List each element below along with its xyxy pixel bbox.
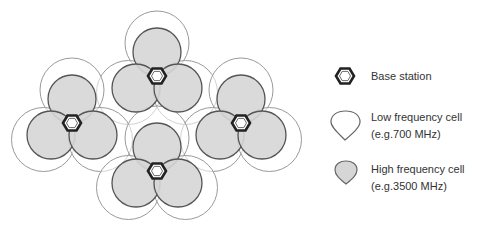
legend-hexagon-icon: [336, 69, 354, 84]
legend-teardrop-filled-icon: [335, 161, 357, 184]
legend-base-station-label: Base station: [371, 68, 432, 84]
legend-high-frequency-sublabel: (e.g.3500 MHz): [371, 178, 447, 194]
base-station-hexagon-icon: [63, 116, 81, 131]
legend-teardrop-outline-icon: [331, 111, 360, 140]
base-station-hexagon-icon: [148, 69, 166, 84]
base-station-hexagon-icon: [148, 164, 166, 179]
legend-high-frequency-label: High frequency cell: [371, 161, 465, 177]
legend-low-frequency-label: Low frequency cell: [371, 109, 462, 125]
legend-low-frequency-sublabel: (e.g.700 MHz): [371, 126, 441, 142]
legend: [331, 69, 360, 185]
base-station-hexagon-icon: [232, 116, 250, 131]
